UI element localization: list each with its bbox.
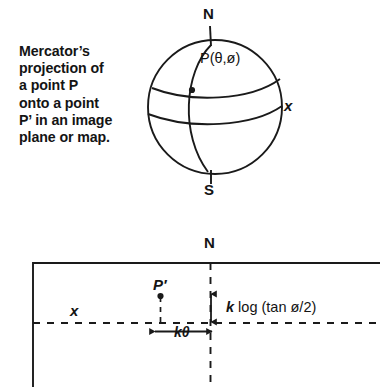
sphere-point-p-label: P(θ,ø) bbox=[200, 51, 240, 66]
equator-arc bbox=[148, 106, 282, 124]
diagram-vector-layer bbox=[0, 0, 380, 387]
map-group bbox=[33, 263, 380, 387]
map-rectangle-border bbox=[33, 263, 380, 387]
latitude-arc-upper bbox=[152, 79, 280, 98]
map-horizontal-measure-label: kθ bbox=[174, 325, 190, 339]
north-pole-axis-tick bbox=[210, 26, 211, 46]
map-point-pprime-label: P′ bbox=[153, 277, 167, 292]
sphere-x-axis-label: x bbox=[284, 98, 292, 113]
map-vertical-measure-label: k log (tan ø/2) bbox=[226, 300, 316, 315]
map-x-axis-label: x bbox=[70, 303, 78, 318]
sphere-south-pole-label: S bbox=[204, 182, 214, 197]
point-pprime-marker bbox=[157, 293, 163, 299]
figure-canvas: Mercator’s projection of a point P onto … bbox=[0, 0, 380, 387]
point-p-marker bbox=[189, 87, 195, 93]
sphere-north-pole-label: N bbox=[203, 6, 214, 21]
map-north-label: N bbox=[204, 235, 215, 250]
